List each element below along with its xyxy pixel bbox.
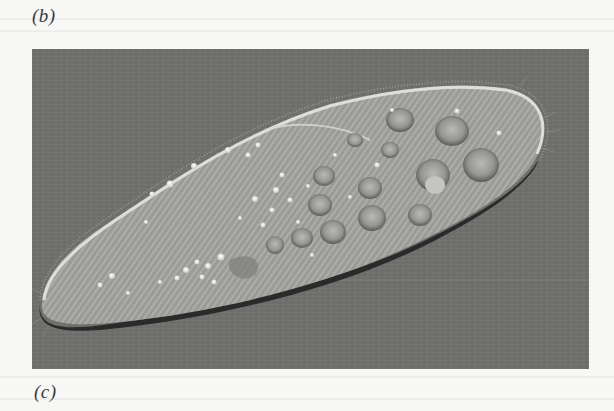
show-through-text (0, 398, 614, 400)
show-through-text (0, 30, 614, 32)
panel-label-b: (b) (32, 5, 56, 27)
show-through-text (0, 376, 614, 378)
micrograph-svg (32, 49, 589, 369)
show-through-text (0, 18, 614, 20)
paramecium-micrograph (32, 49, 589, 369)
panel-label-c: (c) (34, 381, 57, 403)
